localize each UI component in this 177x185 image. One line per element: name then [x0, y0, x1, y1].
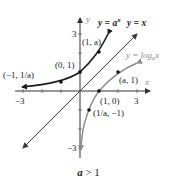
point-a-1 [116, 70, 120, 74]
exponential-label: y = ax [97, 16, 121, 28]
label-neg1-inv-a: (−1, 1/a) [3, 70, 34, 80]
point-1-0 [97, 89, 101, 93]
point-1-a [97, 50, 101, 54]
point-0-1 [78, 70, 82, 74]
graph-canvas: −3 3 3 −3 x y y = ax y = x y = logax (1,… [0, 0, 177, 185]
x-axis-label: x [144, 77, 149, 87]
x-tick-neg3: −3 [15, 96, 25, 106]
caption: a > 1 [0, 166, 177, 178]
label-inv-a-neg1: (1/a, −1) [93, 108, 124, 118]
label-1-a: (1, a) [82, 37, 101, 47]
identity-line-neg [23, 91, 80, 148]
caption-relation: > 1 [83, 166, 100, 178]
label-0-1: (0, 1) [55, 60, 75, 70]
y-tick-3: 3 [72, 29, 77, 39]
label-1-0: (1, 0) [100, 96, 120, 106]
y-axis-label: y [85, 14, 90, 24]
label-a-1: (a, 1) [119, 75, 138, 85]
identity-label: y = x [126, 18, 146, 28]
point-neg1-inv-a [59, 80, 63, 84]
y-tick-neg3: −3 [67, 143, 77, 153]
logarithm-label: y = logax [125, 50, 159, 61]
point-inv-a-neg1 [87, 108, 91, 112]
x-tick-3: 3 [134, 96, 139, 106]
